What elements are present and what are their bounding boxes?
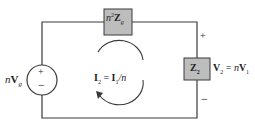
wire-bottom: [42, 80, 197, 118]
wire-top-right: [132, 22, 197, 58]
source-label: nVg: [5, 73, 22, 88]
source-plus: +: [38, 66, 44, 77]
load-voltage-plus: +: [200, 30, 206, 41]
source-minus: −: [38, 78, 45, 93]
wire-top-left: [42, 22, 104, 65]
load-impedance-label: Z2: [190, 62, 200, 75]
series-impedance-label: n2Zg: [106, 12, 124, 25]
load-voltage-minus: −: [201, 92, 208, 107]
loop-current-label: I2 = I1/n: [94, 72, 126, 85]
load-voltage-label: V2 = nV1: [213, 62, 249, 75]
loop-current-arc-top: [98, 40, 143, 60]
